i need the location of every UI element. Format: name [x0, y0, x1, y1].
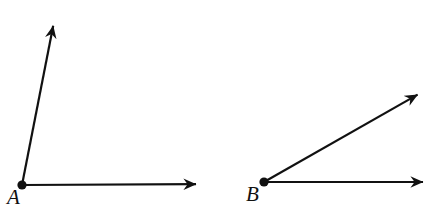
vertex-label-B: B: [246, 184, 259, 205]
vertex-label-A: A: [7, 187, 20, 208]
angle-A: [17, 26, 196, 190]
ray-A-upward: [22, 26, 53, 185]
angle-B: [259, 95, 423, 187]
ray-A-horizontal: [22, 184, 196, 185]
angle-diagram-canvas: [0, 0, 432, 213]
vertex-dot-B: [259, 177, 268, 186]
angle-figure: A B: [0, 0, 432, 213]
ray-B-diagonal: [264, 95, 418, 182]
